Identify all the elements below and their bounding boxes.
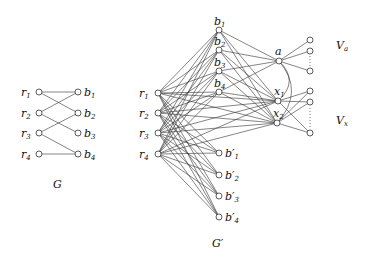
g-node-r2	[36, 110, 42, 116]
gp-edge	[219, 50, 277, 123]
g-label-b4: b4	[84, 148, 96, 162]
g-node-r4	[36, 151, 42, 157]
gp-label-b3: b3	[214, 56, 226, 70]
gp-edge	[158, 93, 219, 175]
g-label-b2: b2	[84, 107, 96, 121]
g-label-r3: r3	[21, 127, 31, 141]
gp-edge	[219, 71, 277, 123]
gp-label-r1: r1	[139, 87, 149, 101]
gp-node-va3	[307, 68, 313, 74]
g-node-r1	[36, 89, 42, 95]
gp-node-r4	[155, 151, 161, 157]
gp-node-vx1	[307, 88, 313, 94]
gp-label-bp4: b′4	[225, 211, 239, 225]
g-label-b3: b3	[84, 127, 96, 141]
bipartite-graph-diagram: r1r2r3r4b1b2b3b4r1r2r3r4b1b2b3b4b′1b′2b′…	[0, 0, 368, 260]
g-node-r3	[36, 130, 42, 136]
gp-node-va2	[307, 48, 313, 54]
g-node-b2	[75, 110, 81, 116]
g-label-r4: r4	[21, 148, 31, 162]
gp-edge	[219, 50, 279, 61]
gp-edge	[219, 61, 279, 71]
gp-node-a	[276, 58, 282, 64]
gp-label-x1: x1	[274, 85, 285, 99]
gp-label-r4: r4	[139, 148, 149, 162]
set-label-vx: Vx	[336, 114, 348, 128]
gp-edge	[219, 30, 278, 101]
gp-node-vx2	[307, 99, 313, 105]
gp-label-b2: b2	[214, 35, 226, 49]
gp-node-r2	[155, 110, 161, 116]
gp-label-bp2: b′2	[225, 169, 240, 183]
gp-node-vx3	[307, 130, 313, 136]
gp-label-r3: r3	[139, 127, 149, 141]
gp-node-bp2	[216, 172, 222, 178]
gp-edge	[219, 30, 279, 61]
g-node-b3	[75, 130, 81, 136]
g-node-b4	[75, 151, 81, 157]
gp-node-r1	[155, 90, 161, 96]
gp-edge	[158, 154, 219, 196]
gp-label-x2: x2	[273, 107, 284, 121]
g-label-b1: b1	[84, 86, 96, 100]
gp-label-b4: b4	[214, 77, 226, 91]
gp-edge	[158, 93, 277, 123]
gp-node-r3	[155, 130, 161, 136]
gp-edge	[158, 154, 219, 175]
gp-label-bp1: b′1	[225, 147, 239, 161]
gp-edge	[279, 40, 310, 61]
g-node-b1	[75, 89, 81, 95]
gp-label-b1: b1	[214, 15, 226, 29]
gp-label-a: a	[275, 45, 282, 58]
gp-edge	[158, 154, 219, 217]
g-edge	[39, 133, 78, 154]
gp-label-r2: r2	[139, 107, 149, 121]
set-label-va: Va	[336, 39, 348, 53]
graph-gprime-caption: G′	[212, 237, 224, 250]
gp-node-bp3	[216, 193, 222, 199]
labels-layer: r1r2r3r4b1b2b3b4r1r2r3r4b1b2b3b4b′1b′2b′…	[21, 15, 285, 225]
g-label-r1: r1	[21, 86, 31, 100]
gp-node-bp4	[216, 214, 222, 220]
graph-g-caption: G	[53, 178, 62, 191]
gp-edge	[158, 113, 219, 196]
edges-layer	[39, 30, 310, 217]
g-label-r2: r2	[21, 107, 31, 121]
gp-edge	[279, 51, 310, 61]
gp-node-bp1	[216, 150, 222, 156]
gp-node-va1	[307, 37, 313, 43]
gp-label-bp3: b′3	[225, 190, 240, 204]
gp-edge	[278, 101, 310, 102]
